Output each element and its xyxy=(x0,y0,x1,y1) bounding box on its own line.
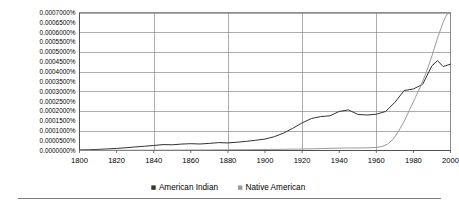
y-axis-tick-label: 0.0003000% xyxy=(40,88,76,95)
y-axis-tick-label: 0.0005500% xyxy=(40,38,76,45)
y-axis-tick-label: 0.0004000% xyxy=(40,68,76,75)
legend-item[interactable]: Native American xyxy=(238,183,306,192)
y-axis-tick-label: 0.0002000% xyxy=(40,107,76,114)
x-axis-tick-label: 1980 xyxy=(405,156,422,165)
x-axis-tick-label: 1920 xyxy=(294,156,311,165)
x-axis-tick-label: 2000 xyxy=(442,156,459,165)
y-axis-tick-label: 0.0002500% xyxy=(40,98,76,105)
legend-label: American Indian xyxy=(159,183,219,192)
y-axis-tick-label: 0.0000500% xyxy=(40,137,76,144)
x-axis-tick-label: 1880 xyxy=(219,156,236,165)
legend-item[interactable]: American Indian xyxy=(151,183,218,192)
legend-label: Native American xyxy=(246,183,306,192)
x-axis-tick-label: 1900 xyxy=(257,156,274,165)
x-axis-tick-label: 1800 xyxy=(71,156,88,165)
y-axis-tick-label: 0.0001000% xyxy=(40,127,76,134)
x-axis-tick-label: 1840 xyxy=(145,156,162,165)
legend-swatch-icon xyxy=(238,185,242,189)
legend-swatch-icon xyxy=(151,185,155,189)
y-axis-tick-label: 0.0006000% xyxy=(40,29,76,36)
y-axis-tick-label: 0.0005000% xyxy=(40,48,76,55)
chart-page: 0.0000000%0.0000500%0.0001000%0.0001500%… xyxy=(0,0,459,203)
y-axis-tick-label: 0.0003500% xyxy=(40,78,76,85)
x-axis-tick-label: 1940 xyxy=(331,156,348,165)
y-axis-tick-label: 0.0006500% xyxy=(40,19,76,26)
y-axis-tick-label: 0.0007000% xyxy=(40,9,76,16)
y-axis-tick-label: 0.0004500% xyxy=(40,58,76,65)
line-chart: 0.0000000%0.0000500%0.0001000%0.0001500%… xyxy=(0,0,459,203)
x-axis-tick-label: 1960 xyxy=(368,156,385,165)
y-axis-tick-labels: 0.0000000%0.0000500%0.0001000%0.0001500%… xyxy=(40,9,76,154)
y-axis-tick-label: 0.0001500% xyxy=(40,117,76,124)
x-axis-tick-label: 1860 xyxy=(182,156,199,165)
x-axis-tick-label: 1820 xyxy=(108,156,125,165)
y-axis-tick-label: 0.0000000% xyxy=(40,147,76,154)
